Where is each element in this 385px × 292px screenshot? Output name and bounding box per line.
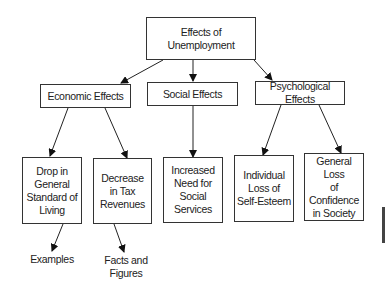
arrow-economic-to-drop	[50, 108, 68, 156]
detail-label-line: in Society	[307, 207, 361, 220]
arrow-drop-to-examples	[52, 224, 63, 251]
detail-label-line: General Loss	[307, 155, 361, 181]
category-node-economic-effects: Economic Effects	[40, 84, 131, 108]
support-label-line: Examples	[30, 253, 74, 265]
category-label: Social Effects	[163, 88, 222, 101]
detail-label-line: Individual	[237, 169, 291, 182]
category-node-psychological-effects: Psychological Effects	[255, 81, 345, 105]
category-label: Psychological Effects	[258, 80, 342, 106]
detail-label-line: Social Services	[166, 190, 220, 216]
detail-label-line: of Confidence	[307, 181, 361, 207]
detail-label-line: in Tax	[100, 185, 145, 198]
support-node-examples: Examples	[24, 253, 80, 266]
arrow-economic-to-decrease	[105, 108, 127, 158]
detail-node-drop-in-standard-of-living: Drop in General Standard of Living	[22, 157, 82, 224]
support-label-line: Figures	[98, 267, 154, 280]
detail-label-line: Increased	[166, 164, 220, 177]
detail-node-increased-need-for-social-services: Increased Need for Social Services	[163, 157, 223, 223]
detail-node-general-loss-of-confidence: General Loss of Confidence in Society	[304, 153, 364, 221]
category-node-social-effects: Social Effects	[147, 82, 238, 106]
detail-label-line: General	[27, 178, 78, 191]
root-label-line: Unemployment	[167, 39, 234, 52]
arrow-root-to-economic	[121, 60, 163, 83]
detail-label-line: Drop in	[27, 165, 78, 178]
detail-label-line: Revenues	[100, 198, 145, 211]
support-label-line: Facts and	[98, 254, 154, 267]
arrow-decrease-to-facts	[114, 224, 124, 252]
detail-label-line: Decrease	[100, 172, 145, 185]
detail-label-line: Standard of	[27, 191, 78, 204]
detail-node-individual-loss-of-self-esteem: Individual Loss of Self-Esteem	[234, 155, 294, 222]
root-label-line: Effects of	[167, 26, 234, 39]
arrow-root-to-psychological	[254, 60, 272, 80]
arrow-psych-to-individual	[263, 105, 281, 155]
detail-label-line: Need for	[166, 177, 220, 190]
detail-node-decrease-in-tax-revenues: Decrease in Tax Revenues	[93, 158, 152, 224]
support-node-facts-and-figures: Facts and Figures	[98, 254, 154, 280]
detail-label-line: Living	[27, 204, 78, 217]
root-node-effects-of-unemployment: Effects of Unemployment	[146, 17, 256, 60]
arrow-psych-to-general-loss	[319, 105, 341, 153]
category-label: Economic Effects	[47, 90, 123, 103]
detail-label-line: Loss of	[237, 182, 291, 195]
detail-label-line: Self-Esteem	[237, 195, 291, 208]
